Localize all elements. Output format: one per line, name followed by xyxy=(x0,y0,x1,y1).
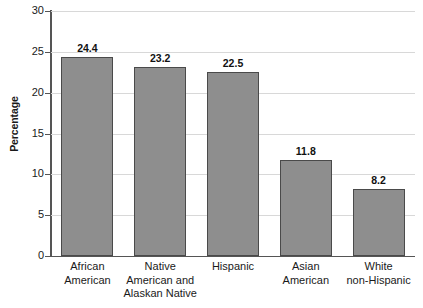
bar xyxy=(207,72,259,256)
category-label-line: Hispanic xyxy=(193,260,274,274)
category-label-line: American xyxy=(265,274,346,288)
bar xyxy=(280,160,332,256)
bar xyxy=(61,57,113,256)
bar-value-label: 8.2 xyxy=(339,174,419,186)
y-tick-label: 25 xyxy=(4,45,44,57)
y-tick-mark xyxy=(45,52,51,53)
plot-area: 24.423.222.511.88.2 xyxy=(51,11,415,256)
y-tick-label: 20 xyxy=(4,86,44,98)
category-label-line: American and xyxy=(120,274,201,288)
y-tick-label: 15 xyxy=(4,127,44,139)
y-tick-mark xyxy=(45,256,51,257)
x-axis-category-label: NativeAmerican andAlaskan Native xyxy=(120,260,201,301)
bar-value-label: 11.8 xyxy=(266,145,346,157)
bar xyxy=(353,189,405,256)
category-label-line: non-Hispanic xyxy=(338,274,419,288)
y-tick-label: 10 xyxy=(4,167,44,179)
y-tick-mark xyxy=(45,134,51,135)
bar-value-label: 22.5 xyxy=(193,57,273,69)
category-label-line: Alaskan Native xyxy=(120,287,201,301)
y-tick-mark xyxy=(45,174,51,175)
bar xyxy=(134,67,186,256)
y-tick-label: 30 xyxy=(4,4,44,16)
y-tick-mark xyxy=(45,93,51,94)
category-label-line: White xyxy=(338,260,419,274)
y-tick-mark xyxy=(45,215,51,216)
category-label-line: African xyxy=(47,260,128,274)
y-tick-label: 0 xyxy=(4,249,44,261)
x-axis-category-label: Hispanic xyxy=(193,260,274,274)
bar-chart: Percentage 24.423.222.511.88.2 302520151… xyxy=(0,0,423,308)
x-axis-category-label: AsianAmerican xyxy=(265,260,346,287)
x-axis-category-label: Whitenon-Hispanic xyxy=(338,260,419,287)
bar-value-label: 23.2 xyxy=(120,52,200,64)
category-label-line: Asian xyxy=(265,260,346,274)
category-label-line: American xyxy=(47,274,128,288)
y-tick-label: 5 xyxy=(4,208,44,220)
category-label-line: Native xyxy=(120,260,201,274)
y-tick-mark xyxy=(45,11,51,12)
bar-value-label: 24.4 xyxy=(47,42,127,54)
x-axis-category-label: AfricanAmerican xyxy=(47,260,128,287)
gridline xyxy=(51,11,415,12)
